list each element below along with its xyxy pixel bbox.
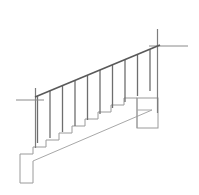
handrail-group — [35, 45, 160, 97]
bottom-newel-group — [16, 88, 44, 148]
top-landing-block-group — [137, 98, 158, 128]
stair-drawing-svg — [0, 0, 199, 195]
stringer-group — [33, 110, 152, 161]
top-newel-group — [149, 29, 188, 113]
stair-figure — [0, 0, 199, 195]
handrail-line — [35, 45, 160, 97]
top-landing-block — [137, 98, 158, 128]
stringer-line — [33, 110, 152, 161]
baluster-group — [38, 49, 151, 143]
